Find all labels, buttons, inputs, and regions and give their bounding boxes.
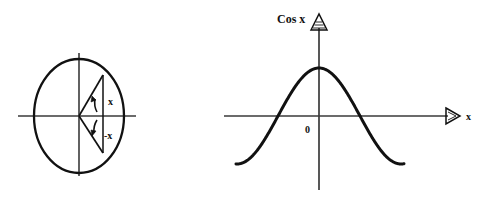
label-positive-x: x [108, 96, 113, 107]
x-axis-label: x [466, 111, 471, 122]
origin-label: 0 [305, 124, 310, 135]
figure-canvas: x -x Cos x x 0 [0, 0, 485, 199]
y-axis-label: Cos x [277, 12, 305, 26]
label-negative-x: -x [104, 130, 112, 141]
background [0, 0, 485, 199]
